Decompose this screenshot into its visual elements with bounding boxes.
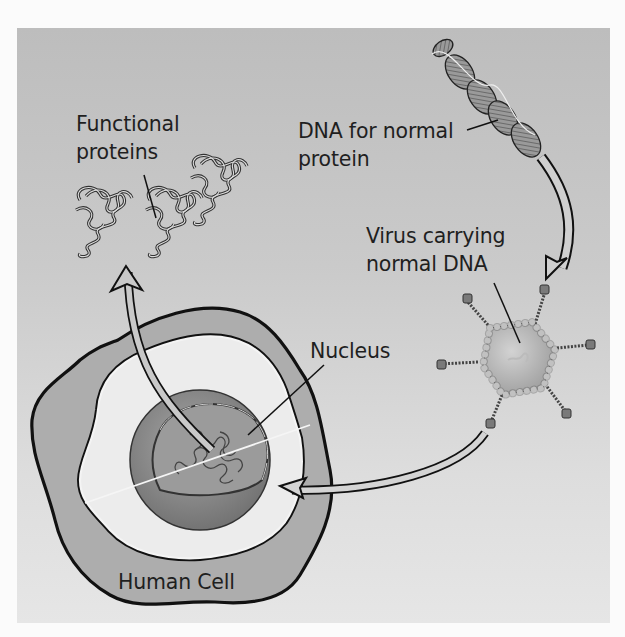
label-dna-normal-protein: DNA for normal protein: [298, 117, 453, 173]
label-nucleus: Nucleus: [310, 337, 390, 365]
label-dna-line2: protein: [298, 145, 453, 173]
label-virus-line1: Virus carrying: [366, 222, 505, 250]
gene-therapy-diagram: [0, 0, 625, 637]
label-virus-line2: normal DNA: [366, 250, 505, 278]
label-human-cell: Human Cell: [118, 568, 235, 596]
label-functional-proteins-line2: proteins: [76, 138, 179, 166]
arrow-dna-to-virus: [541, 157, 569, 279]
virus: [437, 285, 595, 428]
label-dna-line1: DNA for normal: [298, 117, 453, 145]
functional-proteins: [76, 155, 247, 256]
label-functional-proteins: Functional proteins: [76, 110, 179, 166]
proteins-leader-line: [144, 175, 156, 218]
nucleus: [130, 390, 270, 530]
label-virus: Virus carrying normal DNA: [366, 222, 505, 278]
human-cell: [32, 308, 332, 604]
label-functional-proteins-line1: Functional: [76, 110, 179, 138]
